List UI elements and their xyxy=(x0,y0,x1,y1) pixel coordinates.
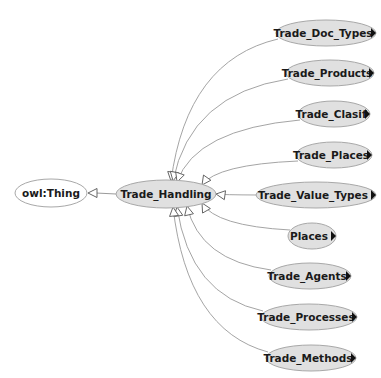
node-label: Trade_Agents xyxy=(267,270,347,283)
class-node-trade-handling[interactable]: Trade_Handling xyxy=(116,180,216,208)
edge-subclass-of xyxy=(187,206,271,270)
class-node-owl-thing[interactable]: owl:Thing xyxy=(15,179,87,207)
edge-subclass-of xyxy=(177,120,300,182)
hollow-triangle-arrow-icon xyxy=(88,189,97,198)
hollow-triangle-arrow-icon xyxy=(216,191,226,200)
class-node-trade-doc-types[interactable]: Trade_Doc_Types xyxy=(273,20,376,46)
ontology-graph: owl:ThingTrade_HandlingTrade_Doc_TypesTr… xyxy=(0,0,381,378)
class-node-trade-clasif[interactable]: Trade_Clasif xyxy=(296,101,370,127)
class-node-trade-agents[interactable]: Trade_Agents xyxy=(267,263,351,289)
node-label: Trade_Doc_Types xyxy=(273,27,372,40)
node-label: Trade_Methods xyxy=(263,352,352,365)
edge-subclass-of xyxy=(173,79,288,181)
node-label: Trade_Places xyxy=(293,149,369,162)
class-node-trade-places[interactable]: Trade_Places xyxy=(293,142,372,168)
edge-subclass-of xyxy=(202,203,290,230)
node-label: Places xyxy=(290,230,328,242)
edge-subclass-of xyxy=(177,207,263,311)
node-label: Trade_Clasif xyxy=(296,108,367,121)
class-node-trade-processes[interactable]: Trade_Processes xyxy=(257,304,357,330)
class-node-trade-methods[interactable]: Trade_Methods xyxy=(263,345,356,371)
edge-subclass-of xyxy=(171,39,278,181)
node-label: Trade_Value_Types xyxy=(258,189,368,202)
node-label: Trade_Products xyxy=(282,67,373,80)
edge-subclass-of xyxy=(96,193,116,194)
hollow-triangle-arrow-icon xyxy=(202,175,211,185)
class-node-trade-value-types[interactable]: Trade_Value_Types xyxy=(256,182,376,208)
edge-subclass-of xyxy=(202,161,298,185)
node-label: owl:Thing xyxy=(22,187,80,199)
class-node-trade-products[interactable]: Trade_Products xyxy=(282,60,374,86)
node-label: Trade_Processes xyxy=(257,311,354,324)
node-label: Trade_Handling xyxy=(120,188,211,201)
nodes-layer: owl:ThingTrade_HandlingTrade_Doc_TypesTr… xyxy=(15,20,376,371)
edge-subclass-of xyxy=(173,207,268,352)
hollow-triangle-arrow-icon xyxy=(185,206,194,216)
hollow-triangle-arrow-icon xyxy=(202,203,210,213)
class-node-places[interactable]: Places xyxy=(288,223,336,249)
